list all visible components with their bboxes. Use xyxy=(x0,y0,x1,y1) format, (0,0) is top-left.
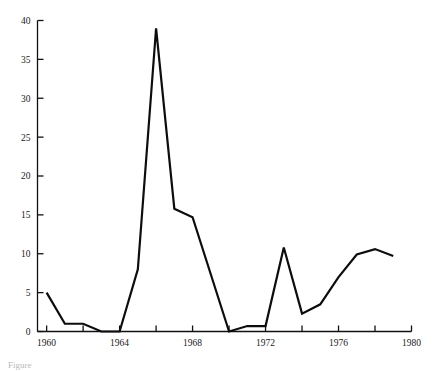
x-tick-label: 1980 xyxy=(402,338,421,348)
x-tick-label: 1960 xyxy=(37,338,56,348)
y-tick-label: 20 xyxy=(21,171,31,181)
line-chart-figure: 0510152025303540 19601964196819721976198… xyxy=(0,0,439,371)
y-tick-label: 30 xyxy=(21,94,31,104)
x-tick-label: 1968 xyxy=(183,338,202,348)
x-tick-label: 1976 xyxy=(329,338,348,348)
data-line-series-1 xyxy=(47,28,394,331)
y-axis: 0510152025303540 xyxy=(21,16,44,337)
data-series-group xyxy=(47,28,394,331)
y-tick-label: 35 xyxy=(21,55,31,65)
y-tick-label: 15 xyxy=(21,210,31,220)
figure-caption: Figure xyxy=(8,360,433,371)
x-tick-label: 1964 xyxy=(110,338,129,348)
y-tick-label: 10 xyxy=(21,249,31,259)
chart-plot-area: 0510152025303540 19601964196819721976198… xyxy=(0,0,439,371)
y-tick-label: 5 xyxy=(26,288,31,298)
y-tick-label: 40 xyxy=(21,16,31,26)
x-tick-label: 1972 xyxy=(256,338,275,348)
y-tick-label: 0 xyxy=(26,327,31,337)
y-tick-label: 25 xyxy=(21,133,31,143)
